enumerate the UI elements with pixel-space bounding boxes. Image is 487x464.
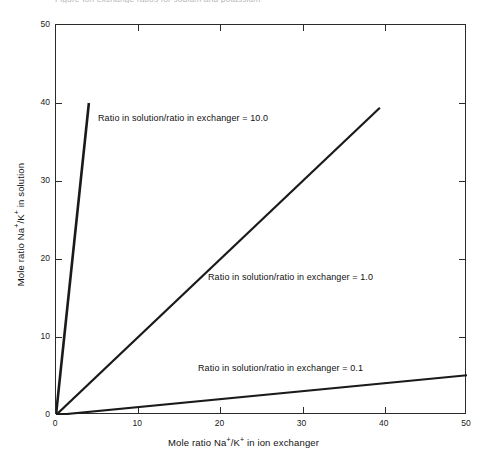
data-lines <box>56 25 467 415</box>
annotation-ratio-1: Ratio in solution/ratio in exchanger = 1… <box>208 272 373 282</box>
plot-area <box>55 24 466 414</box>
y-axis-title: Mole ratio Na+/K+ in solution <box>15 125 26 325</box>
x-tick-label-0: 0 <box>53 418 58 428</box>
y-tick-label-40: 40 <box>24 97 50 107</box>
y-tick-label-50: 50 <box>24 19 50 29</box>
y-axis-title-sup-1: + <box>13 224 20 228</box>
y-tick-label-30: 30 <box>24 175 50 185</box>
y-tick-label-0: 0 <box>24 409 50 419</box>
x-axis-title-prefix: Mole ratio Na <box>168 437 226 448</box>
x-axis-title-mid: /K <box>231 437 240 448</box>
annotation-ratio-10: Ratio in solution/ratio in exchanger = 1… <box>98 113 268 123</box>
y-tick-label-20: 20 <box>24 253 50 263</box>
series-line-ratio-10 <box>56 103 89 415</box>
x-axis-title-suffix: in ion exchanger <box>244 437 319 448</box>
x-tick-label-40: 40 <box>379 418 388 428</box>
y-axis-title-mid: /K <box>15 214 26 223</box>
series-line-ratio-0-1 <box>56 375 467 415</box>
x-tick-label-20: 20 <box>215 418 224 428</box>
x-tick-label-50: 50 <box>461 418 470 428</box>
y-axis-title-sup-2: + <box>13 210 20 214</box>
y-tick-label-10: 10 <box>24 331 50 341</box>
x-tick-label-30: 30 <box>297 418 306 428</box>
figure-caption-fragment: Figure Ion exchange ratios for sodium an… <box>55 0 455 3</box>
x-tick-label-10: 10 <box>132 418 141 428</box>
annotation-ratio-0-1: Ratio in solution/ratio in exchanger = 0… <box>198 363 363 373</box>
figure-container: Figure Ion exchange ratios for sodium an… <box>0 0 487 464</box>
y-axis-title-suffix: in solution <box>15 163 26 210</box>
x-axis-title: Mole ratio Na+/K+ in ion exchanger <box>0 437 487 448</box>
